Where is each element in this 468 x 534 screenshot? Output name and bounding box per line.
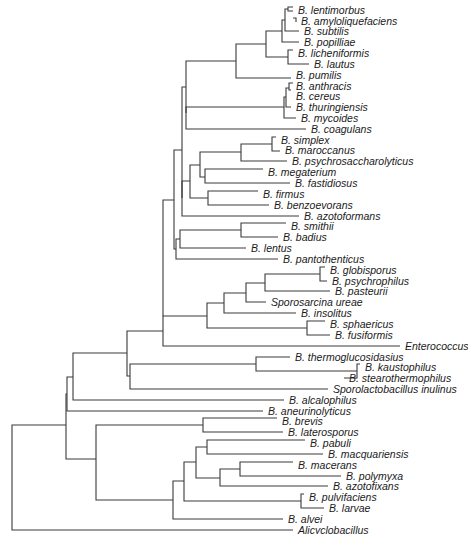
tree-branch <box>200 152 241 177</box>
tree-branch <box>307 321 330 335</box>
leaf-label: B. fusiformis <box>335 329 394 341</box>
tree-branch <box>220 469 328 486</box>
phylogenetic-tree-figure: B. lentimorbusB. amyloliquefaciensB. sub… <box>0 0 468 534</box>
leaf-label: Enterococcus <box>405 340 468 352</box>
leaf-label: B. larvae <box>329 502 371 514</box>
tree-branch <box>73 353 284 400</box>
tree-branch <box>196 447 220 478</box>
tree-branch <box>241 223 286 237</box>
tree-branch <box>130 364 328 389</box>
leaf-label: Alicyclobacillus <box>297 524 369 534</box>
tree-branch <box>66 394 96 459</box>
tree-branch <box>241 144 287 161</box>
tree-branch <box>208 191 269 205</box>
tree-branch <box>127 331 163 376</box>
tree-branch <box>272 137 280 151</box>
tree-branch <box>289 83 293 90</box>
tree-branch <box>236 44 291 78</box>
tree-branch <box>163 200 174 316</box>
tree-branch <box>67 377 263 411</box>
tree-branch <box>12 425 293 530</box>
tree-branch <box>285 9 299 31</box>
tree-branch <box>266 31 288 57</box>
tree-branch <box>286 88 291 107</box>
tree-branch <box>184 462 301 501</box>
tree-branch <box>288 7 293 11</box>
tree-branch <box>203 418 283 432</box>
tree-branch <box>173 481 283 519</box>
tree-branch <box>320 267 327 281</box>
tree-branch <box>186 61 236 113</box>
tree-branch <box>207 440 323 454</box>
tree-branch <box>180 230 246 248</box>
tree-branch <box>174 150 182 249</box>
tree-branch <box>246 283 266 302</box>
leaf-label: B. fastidiosus <box>295 177 358 189</box>
tree-branch <box>293 18 296 22</box>
tree-diagram: B. lentimorbusB. amyloliquefaciensB. sub… <box>0 0 468 534</box>
